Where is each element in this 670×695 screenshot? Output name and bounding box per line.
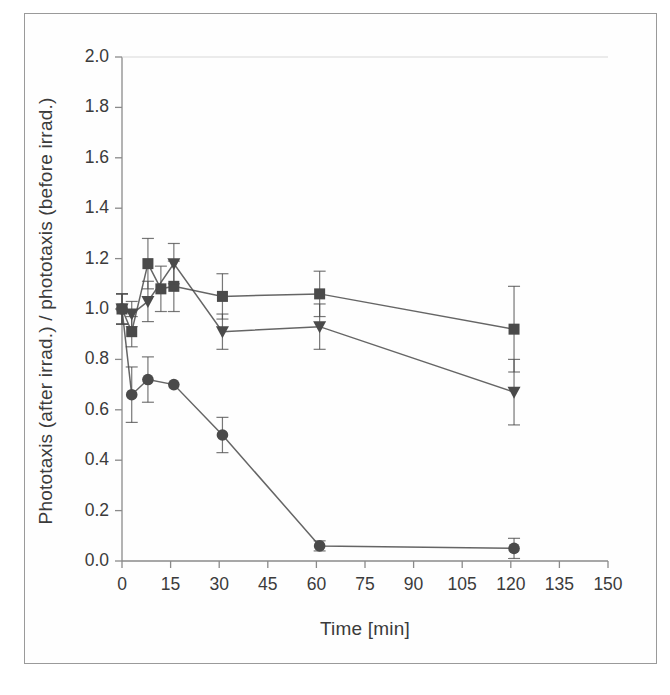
series-circle: [116, 294, 520, 559]
marker-triangle-down: [508, 387, 521, 399]
marker-triangle-down: [141, 296, 154, 308]
plot-area: [0, 0, 670, 695]
marker-circle: [168, 379, 180, 391]
marker-circle: [142, 374, 154, 386]
marker-square: [142, 258, 153, 269]
marker-square: [314, 288, 325, 299]
marker-square: [126, 326, 137, 337]
marker-triangle-down: [167, 258, 180, 270]
figure-page: Phototaxis (after irrad.) / phototaxis (…: [0, 0, 670, 695]
marker-circle: [116, 303, 128, 315]
marker-circle: [508, 543, 520, 555]
marker-circle: [217, 429, 229, 441]
marker-circle: [126, 389, 138, 401]
marker-circle: [314, 540, 326, 552]
marker-square: [509, 324, 520, 335]
series-line: [122, 309, 514, 548]
marker-square: [217, 291, 228, 302]
chart-figure: Phototaxis (after irrad.) / phototaxis (…: [0, 0, 670, 695]
